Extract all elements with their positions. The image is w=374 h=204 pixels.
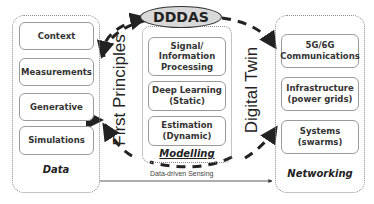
networking-panel-label: Networking (275, 168, 365, 179)
networking-item-infrastructure-label: Infrastructure (power grids) (286, 83, 353, 104)
modelling-item-deep-learning-label: Deep Learning (Static) (152, 85, 222, 106)
data-panel-label: Data (12, 164, 100, 175)
modelling-item-deep-learning: Deep Learning (Static) (148, 81, 226, 111)
modelling-panel-label: Modelling (142, 148, 232, 159)
data-item-context: Context (19, 22, 94, 50)
networking-item-5g6g: 5G/6G Communications (281, 34, 359, 68)
modelling-item-signal-processing: Signal/ Information Processing (148, 37, 226, 76)
data-item-simulations: Simulations (19, 126, 94, 155)
networking-item-infrastructure: Infrastructure (power grids) (281, 77, 359, 111)
modelling-item-estimation-label: Estimation (Dynamic) (161, 120, 212, 141)
digital-twin-label: Digital Twin (242, 40, 262, 140)
first-principles-label: First Principles (110, 30, 130, 150)
data-item-measurements: Measurements (19, 58, 94, 86)
networking-item-systems: Systems (swarms) (281, 120, 359, 154)
networking-item-systems-label: Systems (swarms) (298, 126, 343, 147)
modelling-item-signal-processing-label: Signal/ Information Processing (159, 41, 215, 73)
data-item-generative: Generative (19, 93, 94, 121)
networking-item-5g6g-label: 5G/6G Communications (280, 40, 360, 61)
dddas-ellipse: DDDAS (140, 6, 222, 28)
data-driven-sensing-label: Data-driven Sensing (150, 170, 213, 177)
modelling-item-estimation: Estimation (Dynamic) (148, 116, 226, 146)
